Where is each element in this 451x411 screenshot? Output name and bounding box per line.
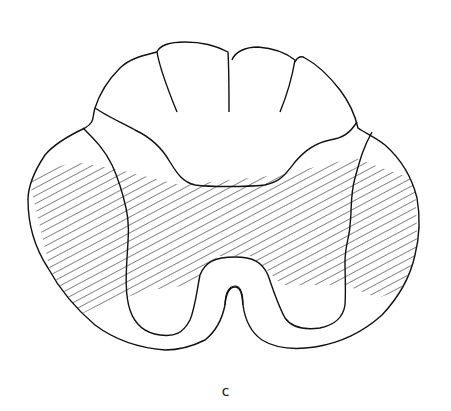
central-fissure <box>225 286 243 305</box>
dorsal-column-right <box>232 47 295 112</box>
spinal-cord-diagram <box>0 0 451 411</box>
figure-label: c <box>0 383 451 399</box>
lesion-hatch-region <box>28 158 418 315</box>
dorsal-column-left <box>157 42 229 112</box>
